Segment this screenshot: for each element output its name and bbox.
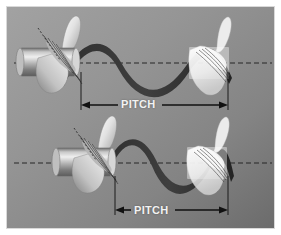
pitch-label-top: PITCH [121, 98, 156, 110]
hub-front-face [16, 48, 24, 76]
hub-front-face [52, 148, 60, 176]
diagram-canvas [0, 0, 281, 235]
pitch-label-bottom: PITCH [134, 204, 169, 216]
propeller-pitch-diagram: PITCH PITCH [0, 0, 281, 235]
